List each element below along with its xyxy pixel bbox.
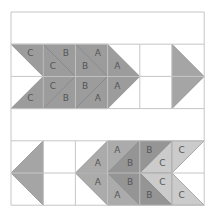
triangle-piece-bot-c6-tl [172,141,204,173]
quilt-block-diagram: CCBCCBABBAAAAAABBABCCBCC [0,0,215,215]
piece-label: A [95,177,102,187]
piece-label: B [82,61,88,71]
piece-label: B [63,93,69,103]
piece-label: C [179,190,185,200]
piece-label: C [159,158,165,168]
piece-label: A [95,93,102,103]
piece-label: C [27,93,33,103]
piece-label: C [179,145,185,155]
piece-label: A [114,61,121,71]
piece-label: C [50,61,56,71]
piece-label: C [27,48,33,58]
piece-label: A [114,190,121,200]
piece-label: C [159,177,165,187]
piece-label: B [146,145,152,155]
piece-label: A [95,48,102,58]
piece-label: B [82,81,88,91]
piece-label: C [50,81,56,91]
triangle-piece-bot-c3-md [75,173,107,205]
piece-label: A [95,158,102,168]
triangle-piece-top-c4-md [108,76,140,108]
triangle-piece-top-c4-mu [108,44,140,76]
piece-label: A [114,145,121,155]
triangle-piece-bot-c6-bl [172,173,204,205]
piece-label: B [146,190,152,200]
triangle-piece-bot-c3-mu [75,141,107,173]
piece-label: B [127,177,133,187]
piece-label: B [63,48,69,58]
piece-label: B [127,158,133,168]
piece-label: A [114,81,121,91]
